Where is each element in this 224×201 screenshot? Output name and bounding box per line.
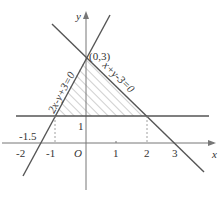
y-axis-arrow	[83, 11, 89, 19]
x-axis-label: x	[211, 148, 217, 160]
y-axis-label: y	[75, 10, 81, 22]
tick-label-neg1: -1	[46, 147, 55, 159]
label-neg1.5: -1.5	[19, 130, 37, 142]
y-tick-label-1: 1	[78, 120, 84, 132]
tick-label-3: 3	[172, 147, 178, 159]
x-axis-arrow	[208, 140, 216, 146]
tick-label-1: 1	[113, 147, 119, 159]
coordinate-diagram: y x O -2 -1 1 2 3 1 -1.5 (0,3) 2x-y+3=0 …	[0, 0, 224, 201]
tick-label-2: 2	[144, 147, 150, 159]
origin-label: O	[74, 147, 82, 159]
tick-label-neg2: -2	[16, 147, 25, 159]
